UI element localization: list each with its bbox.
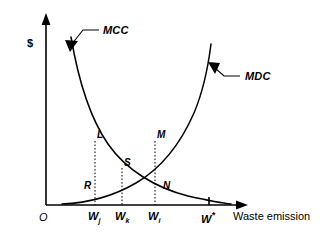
mcc-leader-arrowhead [65, 40, 78, 52]
mcc-curve [71, 37, 231, 204]
point-label-r: R [84, 181, 91, 191]
tick-label-wk-base: W [115, 210, 125, 222]
x-axis-arrowhead [236, 201, 248, 210]
origin-label: O [39, 212, 48, 223]
mdc-leader-line [215, 68, 240, 76]
tick-label-wj-subscript: j [98, 217, 100, 224]
mdc-annotation-leader [208, 62, 240, 76]
mcc-annotation-leader [65, 30, 99, 52]
tick-label-wi-base: W [148, 210, 158, 222]
tick-label-wi-subscript: i [158, 217, 160, 224]
mcc-mdc-waste-emission-figure: $ O Waste emission MCC MDC L M S R N Wj … [0, 0, 324, 237]
point-label-l: L [97, 130, 103, 140]
x-axis-label: Waste emission [233, 211, 310, 222]
tick-label-wstar-superscript: * [211, 210, 215, 220]
tick-label-wstar: W* [201, 211, 215, 225]
point-label-n: N [163, 181, 170, 191]
figure-canvas [0, 0, 324, 237]
tick-label-wj: Wj [88, 211, 100, 224]
tick-label-wj-base: W [88, 210, 98, 222]
tick-label-wstar-base: W [201, 213, 211, 225]
point-label-s: S [124, 158, 131, 168]
dropline-group [95, 141, 155, 205]
y-axis-label: $ [27, 38, 33, 49]
tick-label-wk: Wk [115, 211, 129, 224]
tick-label-wi: Wi [148, 211, 160, 224]
tick-label-wk-subscript: k [125, 217, 129, 224]
mdc-leader-arrowhead [208, 62, 220, 74]
mcc-curve-label: MCC [103, 25, 129, 36]
point-label-m: M [157, 130, 165, 140]
mdc-curve-label: MDC [245, 71, 271, 82]
y-axis-arrowhead [42, 13, 51, 25]
